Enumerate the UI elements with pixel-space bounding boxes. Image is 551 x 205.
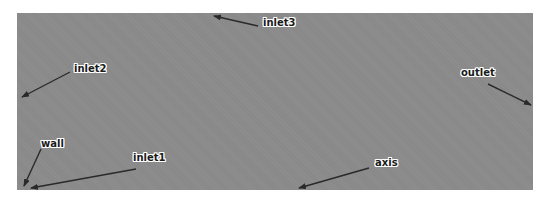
arrow-inlet2: [22, 72, 70, 97]
arrow-outlet: [488, 84, 531, 105]
arrow-inlet1: [31, 169, 136, 188]
arrows-layer: [0, 0, 551, 205]
label-inlet1: inlet1: [132, 152, 167, 163]
label-inlet2: inlet2: [73, 63, 108, 74]
label-outlet: outlet: [460, 67, 496, 78]
arrow-axis: [299, 168, 369, 188]
label-wall: wall: [40, 138, 65, 149]
label-inlet3: inlet3: [262, 17, 297, 28]
label-axis: axis: [374, 157, 399, 168]
arrow-wall: [24, 149, 41, 186]
arrow-inlet3: [214, 16, 258, 26]
diagram-canvas: inlet3 inlet2 outlet wall inlet1 axis: [0, 0, 551, 205]
